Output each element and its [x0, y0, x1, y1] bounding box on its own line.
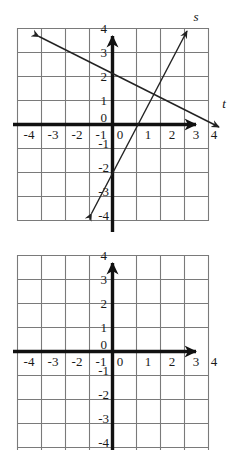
y-tick-label: -4 [98, 435, 109, 450]
y-tick-label: 2 [101, 296, 108, 311]
x-tick-label: 3 [193, 127, 200, 142]
x-tick-label: 2 [169, 127, 176, 142]
y-tick-label: 3 [101, 272, 108, 287]
x-tick-label: -4 [24, 127, 35, 142]
x-tick-label: 2 [169, 354, 176, 369]
x-tick-label: 1 [145, 127, 152, 142]
top-graph-svg: 4 3 2 1 0 -1 -2 -3 -4 -4 -3 -2 -1 0 1 2 … [0, 0, 235, 232]
y-tick-label: 4 [101, 21, 108, 36]
y-tick-label: 2 [101, 69, 108, 84]
y-tick-labels: 4 3 2 1 0 -1 -2 -3 -4 [98, 248, 109, 450]
y-tick-label: 1 [101, 320, 108, 335]
x-tick-label: -2 [72, 354, 83, 369]
x-tick-label: -4 [24, 354, 35, 369]
y-tick-label: 0 [101, 337, 108, 352]
x-tick-label: 4 [211, 127, 218, 142]
graph-with-lines: 4 3 2 1 0 -1 -2 -3 -4 -4 -3 -2 -1 0 1 2 … [0, 0, 235, 228]
line-label-s: s [193, 9, 198, 24]
x-tick-label: -1 [96, 354, 107, 369]
x-tick-label: -3 [48, 354, 59, 369]
y-tick-label: -3 [98, 184, 109, 199]
y-tick-label: 0 [101, 110, 108, 125]
bottom-graph-svg: 4 3 2 1 0 -1 -2 -3 -4 -4 -3 -2 -1 0 1 2 … [0, 232, 235, 450]
x-tick-label: -2 [72, 127, 83, 142]
y-tick-label: 1 [101, 93, 108, 108]
x-tick-label: 0 [117, 127, 124, 142]
y-tick-label: 4 [101, 248, 108, 263]
x-tick-label: 3 [193, 354, 200, 369]
x-tick-label: 4 [211, 354, 218, 369]
y-tick-label: -3 [98, 411, 109, 426]
y-tick-label: -2 [98, 160, 109, 175]
x-tick-label: 1 [145, 354, 152, 369]
y-tick-label: -2 [98, 387, 109, 402]
line-label-t: t [222, 96, 226, 111]
y-tick-label: 3 [101, 45, 108, 60]
empty-graph: 4 3 2 1 0 -1 -2 -3 -4 -4 -3 -2 -1 0 1 2 … [0, 232, 235, 450]
x-tick-label: -3 [48, 127, 59, 142]
y-tick-label: -4 [98, 208, 109, 223]
y-tick-labels: 4 3 2 1 0 -1 -2 -3 -4 [98, 21, 109, 223]
x-tick-label: -1 [96, 127, 107, 142]
x-tick-labels: -4 -3 -2 -1 0 1 2 3 4 [24, 354, 218, 369]
x-tick-labels: -4 -3 -2 -1 0 1 2 3 4 [24, 127, 218, 142]
x-tick-label: 0 [117, 354, 124, 369]
